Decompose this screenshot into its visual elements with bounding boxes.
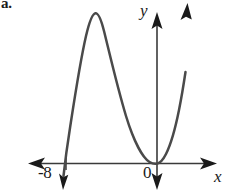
coordinate-plane [0, 0, 231, 193]
graph-figure: a. y x 0 -8 [0, 0, 231, 193]
x-axis-label: x [214, 168, 222, 185]
cubic-curve [64, 13, 186, 176]
x-tick-label--8: -8 [38, 164, 51, 181]
curve-right-arrow-icon [181, 3, 192, 20]
y-axis-label: y [140, 2, 148, 19]
origin-label: 0 [143, 164, 152, 181]
